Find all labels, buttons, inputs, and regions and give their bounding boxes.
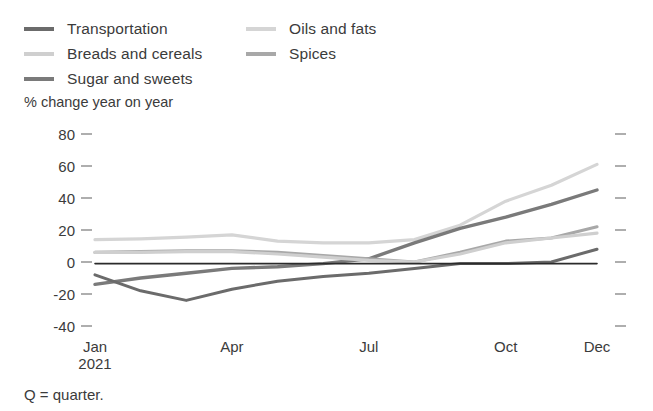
- x-axis-tick-year: 2021: [78, 355, 111, 372]
- y-axis-ticks-right: [615, 134, 626, 326]
- chart-footnote: Q = quarter.: [24, 386, 104, 403]
- series-line-oils-and-fats: [95, 164, 597, 242]
- y-axis-tick-label: 0: [29, 254, 75, 271]
- x-axis-tick-month: Jul: [359, 338, 378, 355]
- y-axis-tick-label: 80: [29, 126, 75, 143]
- x-axis-tick-label: Apr: [220, 338, 243, 355]
- x-axis-tick-label: Jul: [359, 338, 378, 355]
- y-axis-ticks-left: [81, 134, 92, 326]
- y-axis-tick-label: -20: [29, 286, 75, 303]
- y-axis-tick-label: 60: [29, 158, 75, 175]
- x-axis-tick-month: Oct: [494, 338, 517, 355]
- x-axis-tick-label: Dec: [584, 338, 611, 355]
- x-axis-tick-month: Dec: [584, 338, 611, 355]
- y-axis-tick-label: -40: [29, 318, 75, 335]
- x-axis-tick-month: Jan: [83, 338, 107, 355]
- line-chart: 806040200-20-40 Jan2021AprJulOctDec: [0, 0, 653, 411]
- y-axis-tick-label: 40: [29, 190, 75, 207]
- chart-series-group: [95, 164, 597, 300]
- x-axis-tick-label: Jan2021: [78, 338, 111, 372]
- x-axis-tick-month: Apr: [220, 338, 243, 355]
- x-axis-tick-label: Oct: [494, 338, 517, 355]
- y-axis-tick-label: 20: [29, 222, 75, 239]
